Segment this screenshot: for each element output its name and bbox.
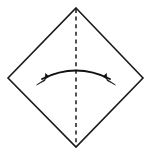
symmetry-figure-svg — [0, 0, 151, 155]
figure-canvas — [0, 0, 151, 155]
